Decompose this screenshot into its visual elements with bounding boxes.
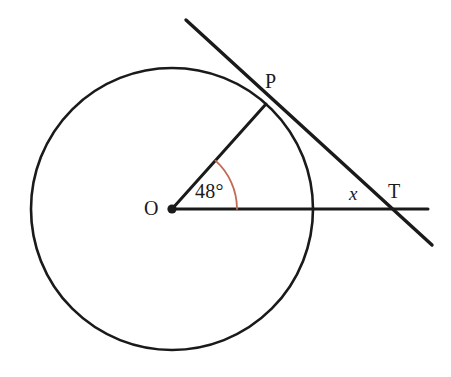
- point-label-p: P: [265, 71, 276, 91]
- geometry-diagram: O P T x 48°: [0, 0, 451, 377]
- point-label-o: O: [144, 198, 158, 218]
- central-angle-label: 48°: [195, 181, 224, 201]
- point-label-t: T: [388, 181, 400, 201]
- unknown-angle-label-x: x: [349, 184, 357, 203]
- center-point-dot: [167, 204, 176, 213]
- tangent-line-at-P: [186, 20, 432, 245]
- geometry-canvas: [0, 0, 451, 377]
